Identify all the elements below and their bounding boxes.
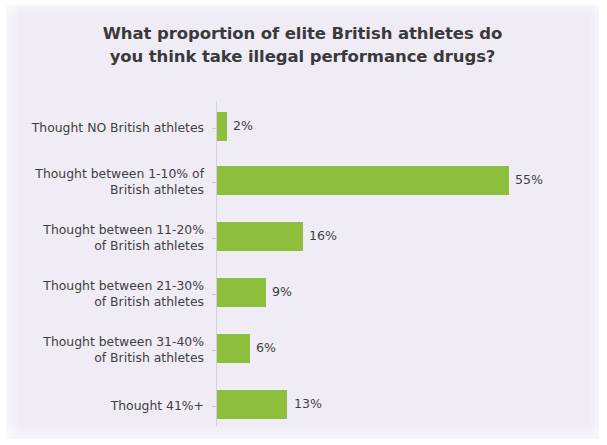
bar-value-label: 13%: [294, 396, 322, 412]
bar-row: Thought between 1-10% of British athlete…: [6, 155, 599, 209]
category-label: Thought between 11-20% of British athlet…: [6, 222, 204, 254]
bar-value-label: 9%: [272, 284, 292, 300]
bar-segment[interactable]: [217, 112, 227, 141]
bar-value-label: 2%: [233, 118, 253, 134]
bar-value-label: 16%: [309, 228, 337, 244]
chart-card: What proportion of elite British athlete…: [6, 5, 599, 439]
bar-row: Thought between 31-40% of British athlet…: [6, 323, 599, 377]
chart-title-line-2: you think take illegal performance drugs…: [6, 45, 599, 68]
category-label: Thought between 21-30% of British athlet…: [6, 278, 204, 310]
bar-row: Thought between 21-30% of British athlet…: [6, 267, 599, 321]
bar-value-label: 55%: [515, 172, 543, 188]
category-label: Thought between 1-10% of British athlete…: [6, 166, 204, 198]
plot-area: Thought NO British athletes 2% Thought b…: [6, 101, 599, 426]
bar-segment[interactable]: [217, 278, 266, 307]
bar-segment[interactable]: [217, 390, 287, 419]
bar-value-label: 6%: [256, 340, 276, 356]
bar-row: Thought between 11-20% of British athlet…: [6, 211, 599, 265]
bar-row: Thought 41%+ 13%: [6, 379, 599, 433]
bar-segment[interactable]: [217, 222, 303, 251]
category-label: Thought NO British athletes: [6, 120, 204, 136]
bar-segment[interactable]: [217, 334, 250, 363]
category-label: Thought 41%+: [6, 398, 204, 414]
chart-title: What proportion of elite British athlete…: [6, 22, 599, 68]
bar-segment[interactable]: [217, 166, 509, 195]
bar-row: Thought NO British athletes 2%: [6, 101, 599, 155]
chart-title-line-1: What proportion of elite British athlete…: [6, 22, 599, 45]
category-label: Thought between 31-40% of British athlet…: [6, 334, 204, 366]
